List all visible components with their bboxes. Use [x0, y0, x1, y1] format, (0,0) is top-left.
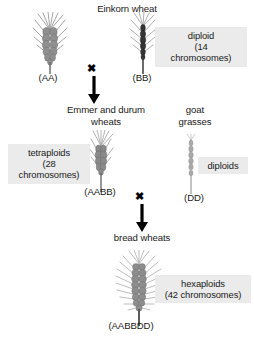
- cross-symbol-2: ✖: [135, 191, 144, 202]
- genome-label-aabb: (AABB): [70, 186, 130, 197]
- genome-label-bb: (BB): [112, 72, 172, 83]
- genome-label-aa: (AA): [18, 72, 78, 83]
- cross-symbol-1: ✖: [87, 63, 96, 74]
- annotation-diploids: diploids: [198, 157, 248, 174]
- einkorn-wheat-spike-icon: [22, 12, 78, 78]
- annotation-diploid-14: diploid (14 chromosomes): [155, 27, 247, 67]
- annotation-tetraploids-28: tetraploids (28 chromosomes): [8, 144, 90, 184]
- annotation-hexaploids-42: hexaploids (42 chromosomes): [155, 275, 251, 303]
- genome-label-dd: (DD): [168, 192, 220, 203]
- goat-grasses-title: goat grasses: [155, 104, 235, 127]
- wheat-evolution-diagram: Einkorn wheat: [0, 0, 254, 344]
- genome-label-aabbdd: (AABBDD): [88, 320, 174, 331]
- bread-wheats-title: bread wheats: [77, 232, 207, 244]
